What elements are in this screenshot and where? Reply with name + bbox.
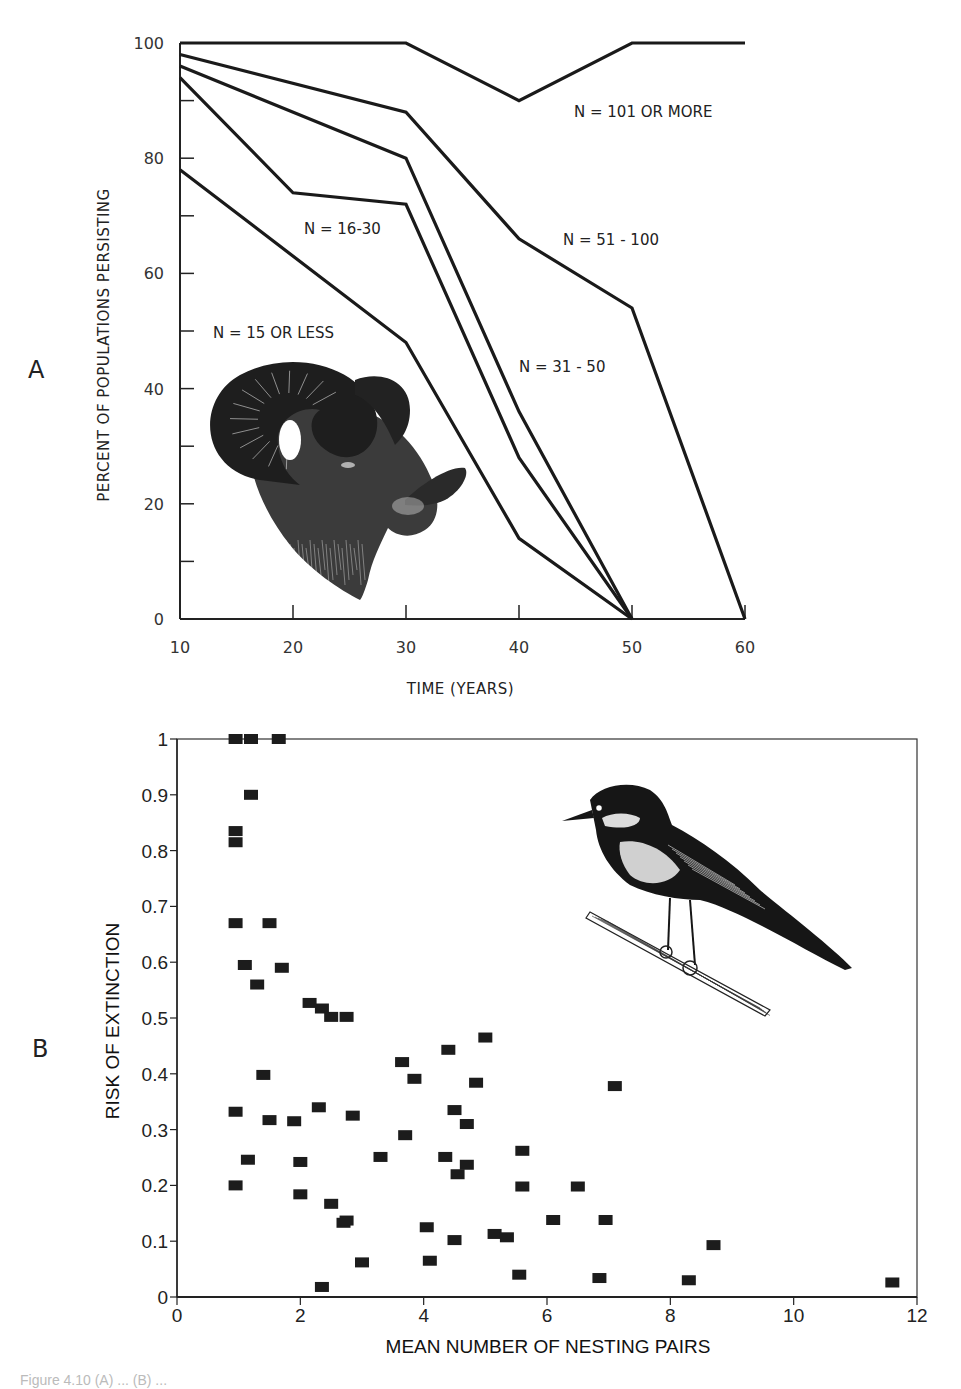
scatter-point xyxy=(229,1180,243,1190)
y-tick-label: 0 xyxy=(154,610,164,629)
scatter-point xyxy=(500,1232,514,1242)
x-tick-label: 8 xyxy=(665,1305,676,1326)
series-label: N = 31 - 50 xyxy=(519,358,605,376)
scatter-point xyxy=(608,1081,622,1091)
scatter-point xyxy=(337,1218,351,1228)
x-tick-label: 10 xyxy=(783,1305,804,1326)
scatter-point xyxy=(293,1157,307,1167)
panel-letter-b: B xyxy=(32,1035,48,1063)
scatter-point xyxy=(256,1070,270,1080)
scatter-point xyxy=(469,1078,483,1088)
scatter-point xyxy=(395,1057,409,1067)
x-axis-label: TIME (YEARS) xyxy=(406,680,514,698)
scatter-point xyxy=(592,1273,606,1283)
scatter-point xyxy=(571,1182,585,1192)
scatter-point xyxy=(229,918,243,928)
y-tick-label: 80 xyxy=(144,149,164,168)
scatter-point xyxy=(478,1033,492,1043)
scatter-point xyxy=(407,1074,421,1084)
series-label: N = 101 OR MORE xyxy=(574,103,712,121)
y-tick-label: 100 xyxy=(133,34,164,53)
scatter-point xyxy=(682,1275,696,1285)
y-tick-label: 0.8 xyxy=(142,841,168,862)
scatter-point xyxy=(374,1152,388,1162)
x-tick-label: 4 xyxy=(418,1305,429,1326)
scatter-point xyxy=(287,1116,301,1126)
scatter-point xyxy=(293,1189,307,1199)
scatter-point xyxy=(488,1229,502,1239)
series-label: N = 16-30 xyxy=(304,220,381,238)
scatter-point xyxy=(885,1277,899,1287)
y-tick-label: 0.4 xyxy=(142,1064,169,1085)
scatter-point xyxy=(707,1240,721,1250)
scatter-point xyxy=(438,1152,452,1162)
scatter-point xyxy=(244,734,258,744)
scatter-point xyxy=(512,1270,526,1280)
y-tick-label: 0.5 xyxy=(142,1008,168,1029)
songbird-illustration xyxy=(562,785,852,1016)
x-tick-label: 0 xyxy=(172,1305,183,1326)
scatter-point xyxy=(229,826,243,836)
scatter-point xyxy=(324,1199,338,1209)
series-label: N = 51 - 100 xyxy=(563,231,659,249)
scatter-point xyxy=(238,960,252,970)
y-tick-label: 0.1 xyxy=(142,1231,168,1252)
x-tick-label: 20 xyxy=(283,638,303,657)
scatter-point xyxy=(315,1282,329,1292)
x-tick-label: 10 xyxy=(170,638,190,657)
y-tick-label: 40 xyxy=(144,380,164,399)
scatter-point xyxy=(460,1160,474,1170)
chart-b-axes: 00.10.20.30.40.50.60.70.80.91024681012ME… xyxy=(102,729,928,1357)
scatter-point xyxy=(229,1107,243,1117)
scatter-point xyxy=(346,1111,360,1121)
y-tick-label: 60 xyxy=(144,264,164,283)
x-tick-label: 12 xyxy=(906,1305,927,1326)
y-tick-label: 0 xyxy=(157,1287,168,1308)
scatter-point xyxy=(398,1130,412,1140)
scatter-point xyxy=(324,1012,338,1022)
y-tick-label: 1 xyxy=(157,729,168,750)
y-axis-label: RISK OF EXTINCTION xyxy=(102,923,123,1119)
bighorn-ram-illustration xyxy=(210,362,466,600)
y-tick-label: 0.7 xyxy=(142,896,168,917)
scatter-point xyxy=(263,918,277,928)
scatter-point xyxy=(420,1222,434,1232)
scatter-point xyxy=(275,963,289,973)
scatter-point xyxy=(441,1045,455,1055)
scatter-point xyxy=(244,790,258,800)
scatter-point xyxy=(451,1169,465,1179)
y-tick-label: 0.6 xyxy=(142,952,168,973)
scatter-point xyxy=(460,1119,474,1129)
plot-frame xyxy=(177,739,917,1297)
chart-a-population-persistence: 020406080100102030405060TIME (YEARS)PERC… xyxy=(0,0,961,710)
x-tick-label: 30 xyxy=(396,638,416,657)
scatter-point xyxy=(599,1215,613,1225)
scatter-point xyxy=(241,1155,255,1165)
x-tick-label: 60 xyxy=(735,638,755,657)
x-tick-label: 2 xyxy=(295,1305,306,1326)
scatter-point xyxy=(250,980,264,990)
scatter-point xyxy=(312,1102,326,1112)
series-label: N = 15 OR LESS xyxy=(213,324,334,342)
scatter-point xyxy=(515,1146,529,1156)
y-tick-label: 0.3 xyxy=(142,1120,168,1141)
scatter-point xyxy=(229,837,243,847)
chart-b-scatter-points xyxy=(229,734,900,1292)
scatter-point xyxy=(448,1105,462,1115)
x-tick-label: 50 xyxy=(622,638,642,657)
figure-caption: Figure 4.10 (A) ... (B) ... xyxy=(20,1372,940,1389)
scatter-point xyxy=(546,1215,560,1225)
y-axis-label: PERCENT OF POPULATIONS PERSISTING xyxy=(95,188,113,501)
scatter-point xyxy=(423,1256,437,1266)
scatter-point xyxy=(263,1115,277,1125)
scatter-point xyxy=(272,734,286,744)
y-tick-label: 0.9 xyxy=(142,785,168,806)
x-tick-label: 40 xyxy=(509,638,529,657)
y-tick-label: 20 xyxy=(144,495,164,514)
scatter-point xyxy=(515,1182,529,1192)
y-tick-label: 0.2 xyxy=(142,1175,168,1196)
series-line xyxy=(180,43,745,101)
scatter-point xyxy=(340,1012,354,1022)
scatter-point xyxy=(315,1004,329,1014)
x-tick-label: 6 xyxy=(542,1305,553,1326)
